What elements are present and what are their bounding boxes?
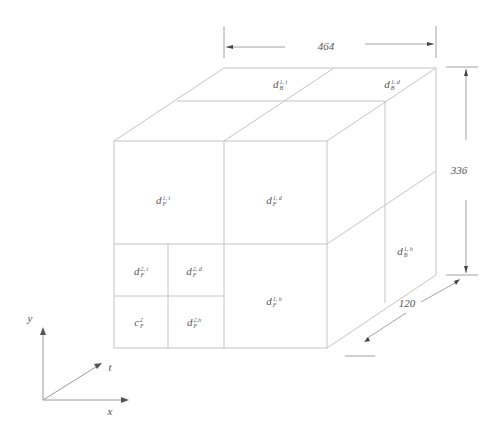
block-label-dB1h: d1, hB	[397, 245, 413, 258]
block-label-dF1h: d1, hF	[266, 295, 282, 308]
depth-dimension-label: 120	[399, 297, 416, 309]
x-axis-label: x	[108, 405, 113, 417]
side-bottom-edge	[327, 275, 436, 348]
block-label-cF2: c2F	[134, 316, 144, 329]
cube-diagram	[0, 0, 501, 434]
block-label-dF2h: d2,hF	[187, 316, 201, 329]
top-left-edge	[114, 68, 224, 141]
height-dimension-label: 336	[451, 164, 468, 176]
top-right-edge	[327, 68, 436, 141]
t-axis	[43, 365, 99, 400]
block-label-dB1t: d1, tB	[273, 78, 287, 91]
block-label-dB1d: d1, dB	[384, 78, 400, 91]
side-horizontal-divider	[327, 171, 436, 244]
width-dimension-label: 464	[318, 40, 335, 52]
block-label-dF1d: d1, dF	[266, 194, 282, 207]
y-axis-label: y	[28, 312, 33, 324]
t-axis-label: t	[108, 361, 111, 373]
block-label-dF2d: d2, dF	[186, 265, 202, 278]
block-label-dF2t: d2, tF	[134, 265, 148, 278]
block-label-dF1t: d1, tF	[156, 194, 170, 207]
